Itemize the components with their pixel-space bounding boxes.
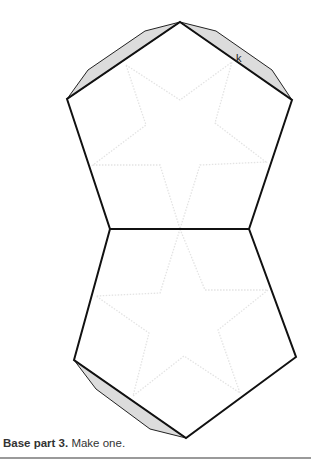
caption-label: Base part 3. [3,437,68,449]
tab-label-k: k [236,52,242,64]
polyhedron-net-diagram: k [0,0,311,461]
divider-rule [0,457,311,459]
figure-caption: Base part 3. Make one. [3,437,125,449]
upper-star-fold-lines [93,62,266,229]
upper-pentagon [67,22,292,229]
caption-text: Make one. [68,437,125,449]
lower-pentagon [74,229,296,438]
lower-star-fold-lines [96,229,268,396]
